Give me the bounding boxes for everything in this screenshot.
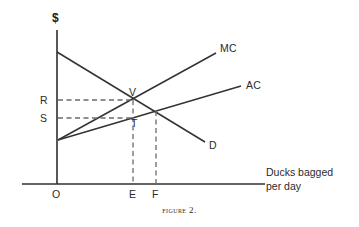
curve-label-d: D <box>209 139 217 151</box>
y-tick-label-s: S <box>40 112 47 124</box>
figure-caption: Figure 2. <box>0 205 359 215</box>
figure-caption-number: 2. <box>189 205 197 215</box>
x-axis-caption-line1: Ducks bagged <box>266 165 333 179</box>
point-label-t: T <box>131 117 138 129</box>
figure-container: $ R S O E F V T MC AC D Ducks bagged per… <box>0 0 359 227</box>
point-label-v: V <box>129 86 136 98</box>
x-tick-label-f: F <box>152 188 159 200</box>
figure-caption-word: Figure <box>162 205 186 215</box>
curve-label-ac: AC <box>246 79 261 91</box>
average-cost-curve <box>58 86 241 140</box>
curve-label-mc: MC <box>220 42 237 54</box>
origin-label: O <box>52 188 60 200</box>
y-axis-label: $ <box>52 11 59 25</box>
x-axis-caption-line2: per day <box>266 179 301 193</box>
x-tick-label-e: E <box>129 188 136 200</box>
y-tick-label-r: R <box>40 94 48 106</box>
